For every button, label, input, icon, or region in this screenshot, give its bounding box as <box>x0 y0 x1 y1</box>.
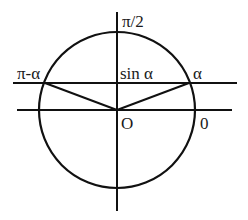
unit-circle-diagram: π/2 π-α sin α α O 0 <box>0 0 248 220</box>
label-pi-minus-alpha: π-α <box>17 64 40 83</box>
label-alpha: α <box>193 64 202 83</box>
label-origin: O <box>121 114 133 133</box>
radius-pi-minus-alpha <box>45 83 117 110</box>
label-zero: 0 <box>200 114 209 133</box>
radius-alpha <box>117 83 189 110</box>
label-pi-over-2: π/2 <box>122 12 144 31</box>
label-sin-alpha: sin α <box>120 64 153 83</box>
